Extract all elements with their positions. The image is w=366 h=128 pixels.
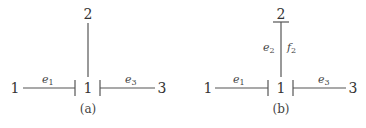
node-left: 1 xyxy=(11,80,20,96)
edge-label-e3: e3 xyxy=(125,73,137,87)
node-left: 1 xyxy=(204,80,213,96)
edge-label-f2: f2 xyxy=(286,41,296,55)
panel-a: 2 1 1 3 e1 e3 (a) xyxy=(11,6,167,116)
node-top: 2 xyxy=(84,6,93,22)
edge-label-e1: e1 xyxy=(233,73,245,87)
edge-label-e1: e1 xyxy=(42,73,54,87)
panel-b: 2 e2 f2 1 1 3 e1 e3 (b) xyxy=(204,6,358,116)
caption-a: (a) xyxy=(80,102,97,116)
bond-graph-diagram: 2 1 1 3 e1 e3 (a) 2 e2 f2 1 1 3 e1 e3 (b… xyxy=(0,0,366,128)
node-right: 3 xyxy=(158,80,167,96)
caption-b: (b) xyxy=(272,102,289,116)
node-top: 2 xyxy=(277,6,286,22)
edge-label-e3: e3 xyxy=(318,73,330,87)
node-center: 1 xyxy=(84,80,93,96)
node-center: 1 xyxy=(277,80,286,96)
edge-label-e2: e2 xyxy=(263,41,275,55)
node-right: 3 xyxy=(349,80,358,96)
